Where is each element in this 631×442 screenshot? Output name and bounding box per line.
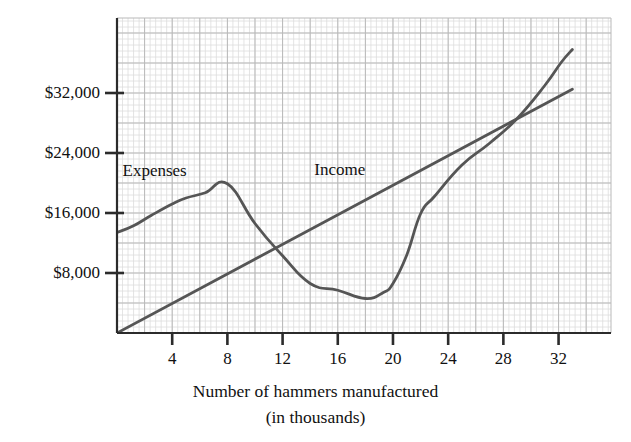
x-tick-label-16: 16: [308, 350, 368, 367]
annotation-expenses: Expenses: [123, 162, 187, 180]
plot-area: $8,000$16,000$24,000$32,000 481216202428…: [0, 0, 631, 442]
y-tick-label-8000: $8,000: [0, 264, 100, 281]
x-tick-label-24: 24: [418, 350, 478, 367]
x-tick-label-4: 4: [142, 350, 202, 367]
x-tick-label-28: 28: [473, 350, 533, 367]
y-tick-label-24000: $24,000: [0, 144, 100, 161]
series-line-income: [117, 89, 572, 333]
x-tick-label-8: 8: [197, 350, 257, 367]
x-tick-label-12: 12: [253, 350, 313, 367]
series-lines: [117, 50, 572, 334]
y-tick-label-32000: $32,000: [0, 84, 100, 101]
x-axis-title-line1: Number of hammers manufactured: [0, 381, 631, 402]
chart-figure: $8,000$16,000$24,000$32,000 481216202428…: [0, 0, 631, 442]
annotation-income: Income: [314, 161, 365, 179]
x-axis-title-line2: (in thousands): [0, 407, 631, 428]
x-tick-label-20: 20: [363, 350, 423, 367]
y-tick-label-16000: $16,000: [0, 204, 100, 221]
x-tick-label-32: 32: [529, 350, 589, 367]
